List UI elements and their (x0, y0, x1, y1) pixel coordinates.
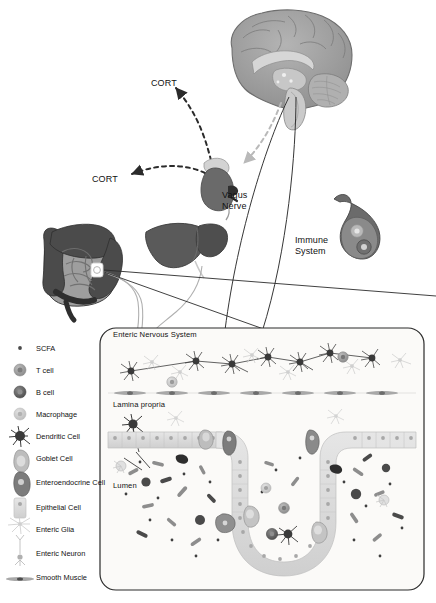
goblet-cell (312, 522, 327, 543)
goblet-cell (199, 430, 213, 449)
vagus-nerve-label-line2: Nerve (222, 201, 247, 212)
legend-item-smooth-muscle: Smooth Muscle (0, 567, 104, 589)
legend-item-epithelial-cell: Epithelial Cell (0, 497, 104, 519)
legend-label-macrophage: Macrophage (36, 404, 106, 426)
cort-arrow-left (132, 166, 205, 174)
legend-item-goblet-cell: Goblet Cell (0, 448, 104, 470)
legend-label-goblet-cell: Goblet Cell (36, 448, 106, 470)
legend-item-enteroendocrine-cell: Enteroendocrine Cell (0, 470, 104, 496)
legend-label-enteric-glia: Enteric Glia (36, 519, 106, 541)
vagus-nerve-lines (225, 97, 296, 332)
liver-illustration (146, 223, 228, 278)
legend-item-b-cell: B cell (0, 382, 104, 404)
immune-system-label-line1: Immune (295, 235, 328, 246)
intestine-callout-box (91, 263, 103, 277)
brain-illustration (231, 10, 352, 130)
legend-label-smooth-muscle: Smooth Muscle (36, 567, 106, 589)
legend-label-scfa: SCFA (36, 338, 106, 360)
gut-brain-axis-figure: CORT CORT Vagus Nerve Immune System Ente… (0, 0, 436, 603)
legend-label-enteric-neuron: Enteric Neuron (36, 543, 106, 565)
legend-label-t-cell: T cell (36, 360, 106, 382)
immune-organ-illustration (334, 195, 380, 260)
cort-label-lower: CORT (92, 174, 118, 185)
lumen-label: Lumen (113, 481, 137, 490)
legend-label-dendritic-cell: Dendritic Cell (36, 426, 106, 448)
goblet-cell (244, 506, 259, 527)
enteroendocrine-cell (306, 430, 319, 454)
legend-item-scfa: SCFA (0, 338, 104, 360)
legend-label-enteroendocrine-cell: Enteroendocrine Cell (36, 470, 106, 496)
enteroendocrine-cell (216, 514, 236, 533)
legend-label-epithelial-cell: Epithelial Cell (36, 497, 106, 519)
vagus-nerve-label-line1: Vagus (222, 190, 247, 201)
legend-item-enteric-glia: Enteric Glia (0, 519, 104, 541)
legend-label-b-cell: B cell (36, 382, 106, 404)
lamina-propria-label: Lamina propria (113, 400, 165, 409)
immune-system-label-line2: System (295, 246, 328, 257)
large-intestine-illustration (43, 224, 123, 320)
cort-arrow-brain-to-adrenal (244, 103, 281, 163)
enteric-nervous-system-label: Enteric Nervous System (113, 330, 197, 339)
legend-item-dendritic-cell: Dendritic Cell (0, 426, 104, 448)
legend-item-macrophage: Macrophage (0, 404, 104, 426)
enteroendocrine-cell (223, 431, 236, 455)
cort-label-upper: CORT (151, 78, 177, 89)
legend-item-t-cell: T cell (0, 360, 104, 382)
legend-item-enteric-neuron: Enteric Neuron (0, 543, 104, 565)
cort-arrow-up (176, 88, 213, 168)
